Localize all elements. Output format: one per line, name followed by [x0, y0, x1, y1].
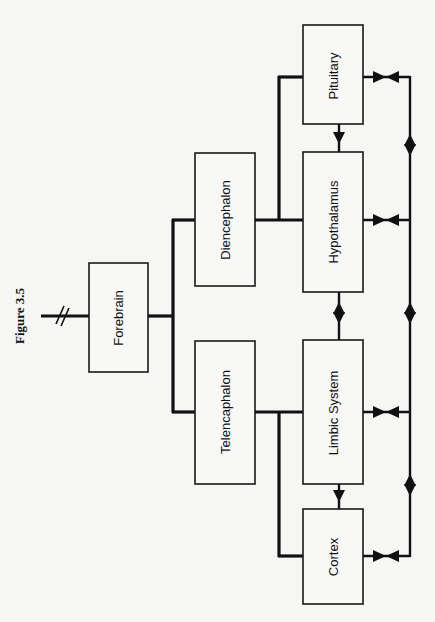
arrow-down-icon — [333, 132, 345, 144]
input-line — [41, 306, 89, 326]
pituitary-bus-link — [363, 71, 410, 83]
node-telencaphalon: Telencaphalon — [195, 341, 255, 484]
arrow-left-icon — [386, 550, 399, 562]
node-cortex: Cortex — [303, 509, 363, 604]
node-forebrain: Forebrain — [89, 263, 148, 372]
node-limbic-system: Limbic System — [303, 340, 363, 484]
arrow-right-icon — [373, 550, 386, 562]
telencaphalon-connector — [255, 411, 303, 557]
node-label: Cortex — [326, 537, 341, 576]
node-hypothalamus: Hypothalamus — [303, 152, 363, 292]
feedback-bus — [404, 76, 416, 557]
node-pituitary: Pituitary — [303, 25, 363, 124]
cortex-bus-link — [363, 550, 410, 562]
node-diencephalon: Diencephalon — [195, 153, 255, 286]
limbic-to-cortex-arrow — [333, 484, 345, 509]
figure-title: Figure 3.5 — [12, 287, 27, 344]
arrow-down-icon — [404, 144, 416, 156]
node-label: Forebrain — [111, 290, 126, 346]
arrow-down-icon — [404, 484, 416, 496]
arrow-down-icon — [404, 312, 416, 324]
hypothalamus-limbic-bidirectional-arrow — [333, 292, 345, 340]
arrow-right-icon — [373, 71, 386, 83]
pituitary-to-hypothalamus-arrow — [333, 124, 345, 152]
diencephalon-connector — [255, 76, 303, 221]
arrow-left-icon — [386, 406, 399, 418]
brain-hierarchy-diagram: Figure 3.5 Forebrain Diencephalon Telenc… — [0, 0, 435, 622]
hypothalamus-bus-link — [363, 214, 410, 226]
arrow-left-icon — [386, 214, 399, 226]
node-label: Diencephalon — [218, 180, 233, 260]
node-label: Limbic System — [326, 371, 341, 456]
arrow-right-icon — [373, 406, 386, 418]
limbic-bus-link — [363, 406, 410, 418]
node-label: Telencaphalon — [218, 370, 233, 454]
arrow-left-icon — [386, 71, 399, 83]
arrow-down-icon — [333, 312, 345, 324]
arrow-right-icon — [373, 214, 386, 226]
node-label: Hypothalamus — [326, 180, 341, 264]
arrow-down-icon — [333, 490, 345, 502]
node-label: Pituitary — [326, 52, 341, 99]
forebrain-connector — [148, 219, 195, 413]
